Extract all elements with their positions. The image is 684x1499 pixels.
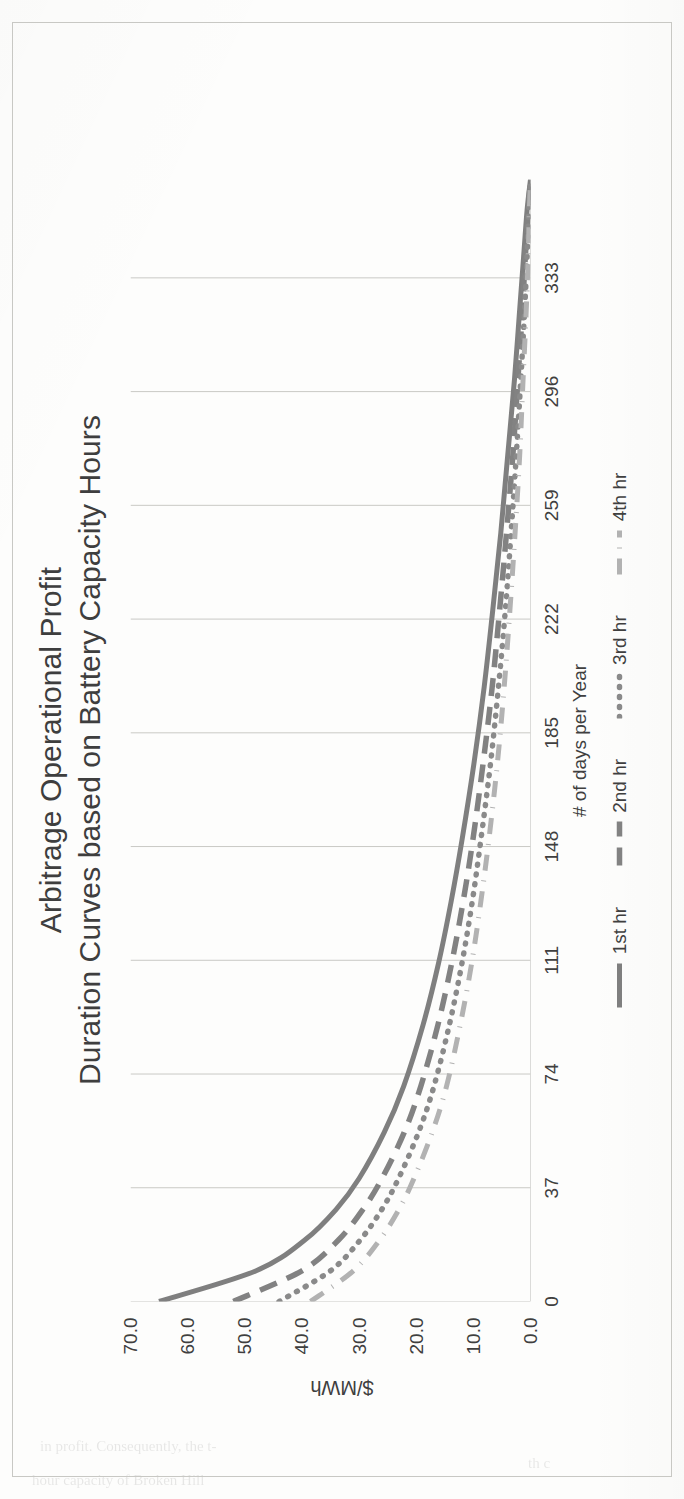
x-tick-label: 185	[540, 697, 562, 767]
legend-item-1st-hr[interactable]: 1st hr	[608, 906, 630, 1008]
x-tick-label: 222	[540, 584, 562, 654]
legend-line-swatch	[612, 820, 626, 866]
chart-title-line-1: Arbitrage Operational Profit	[30, 22, 69, 1477]
legend-item-4th-hr[interactable]: 4th hr	[608, 472, 630, 575]
series-line-1st-hr	[159, 179, 530, 1301]
legend-item-3rd-hr[interactable]: 3rd hr	[608, 615, 630, 719]
legend-line-swatch	[612, 962, 626, 1008]
x-tick-label: 259	[540, 470, 562, 540]
x-axis-title: # of days per Year	[568, 179, 590, 1301]
legend-label: 1st hr	[608, 906, 630, 954]
legend-label: 4th hr	[608, 472, 630, 521]
x-tick-label: 37	[540, 1152, 562, 1222]
legend-line-swatch	[612, 672, 626, 718]
legend-label: 3rd hr	[608, 615, 630, 665]
x-tick-label: 296	[540, 356, 562, 426]
y-tick-label: 70.0	[119, 1317, 141, 1397]
legend-line-swatch	[612, 529, 626, 575]
y-axis-title: $/MWh	[242, 1376, 442, 1399]
x-tick-label: 148	[540, 811, 562, 881]
x-tick-label: 0	[540, 1266, 562, 1336]
x-tick-label: 333	[540, 242, 562, 312]
chart-frame: Arbitrage Operational Profit Duration Cu…	[12, 22, 672, 1477]
x-tick-label: 74	[540, 1039, 562, 1109]
plot-svg	[130, 179, 530, 1301]
chart-legend: 1st hr2nd hr3rd hr4th hr	[608, 179, 630, 1301]
y-tick-label: 10.0	[462, 1317, 484, 1397]
plot-area: 03774111148185222259296333 0.010.020.030…	[130, 179, 530, 1301]
series-paths	[159, 179, 530, 1301]
chart-inner: Arbitrage Operational Profit Duration Cu…	[12, 22, 672, 1477]
legend-label: 2nd hr	[608, 758, 630, 812]
series-line-4th-hr	[310, 179, 530, 1301]
y-tick-label: 60.0	[176, 1317, 198, 1397]
rotated-chart-stage: Arbitrage Operational Profit Duration Cu…	[12, 22, 672, 1477]
legend-item-2nd-hr[interactable]: 2nd hr	[608, 758, 630, 866]
chart-title: Arbitrage Operational Profit Duration Cu…	[30, 22, 108, 1477]
x-tick-label: 111	[540, 925, 562, 995]
y-tick-label: 0.0	[519, 1317, 541, 1397]
chart-title-line-2: Duration Curves based on Battery Capacit…	[69, 22, 108, 1477]
